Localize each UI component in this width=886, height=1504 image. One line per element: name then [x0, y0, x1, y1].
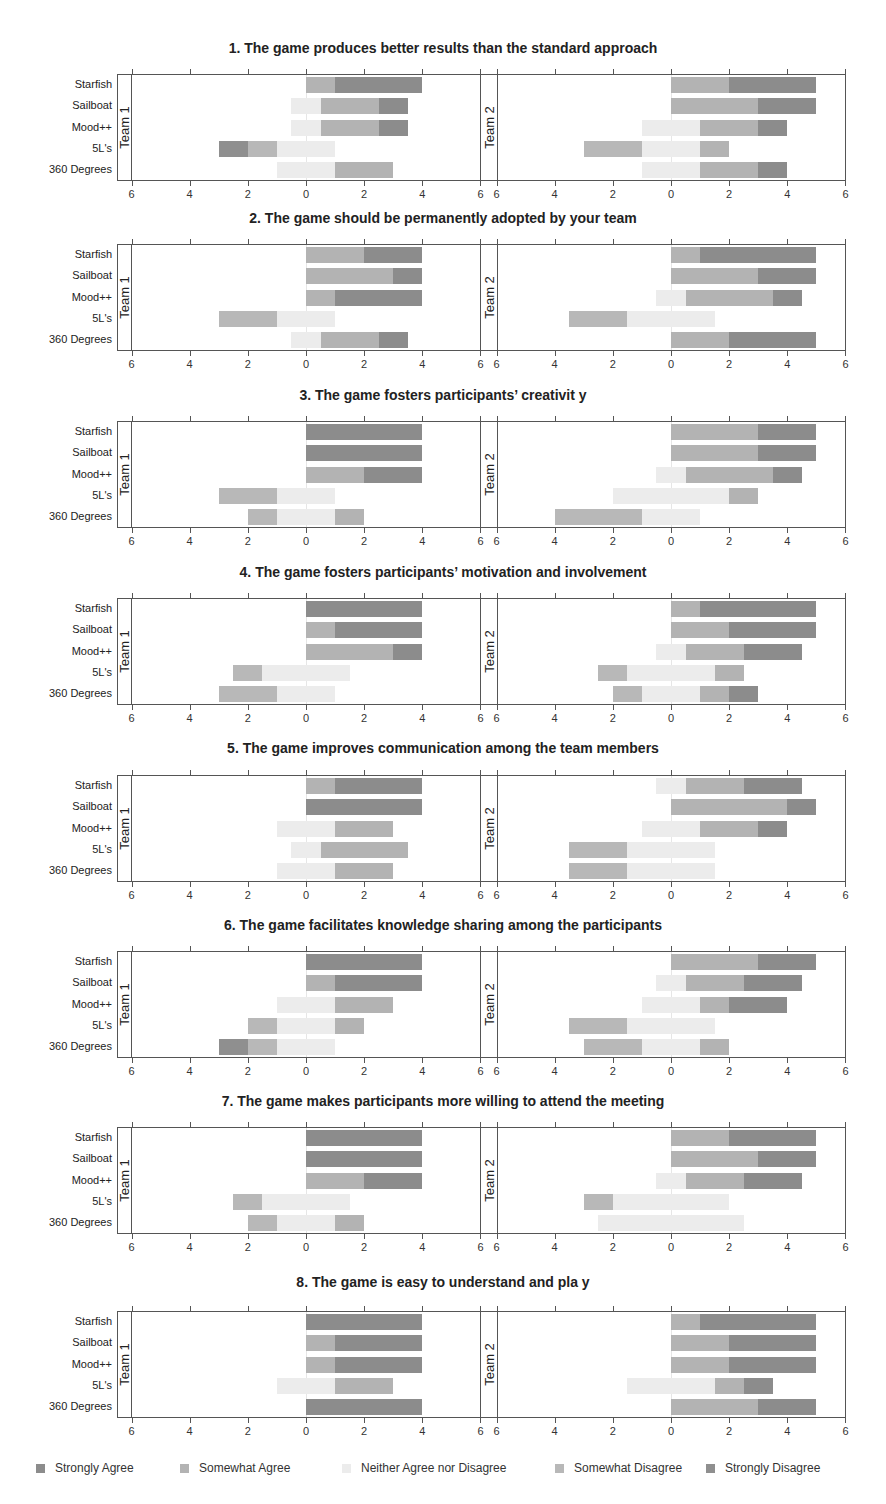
- tick-label: 2: [238, 188, 258, 200]
- tick-mark: [132, 239, 133, 244]
- tick-mark: [190, 1234, 191, 1239]
- tick-mark: [364, 351, 365, 356]
- tick-mark: [364, 239, 365, 244]
- tick-mark: [248, 416, 249, 421]
- tick-label: 4: [545, 889, 565, 901]
- bar-segment-strongly-agree: [773, 290, 802, 306]
- bar-segment-neutral: [291, 332, 320, 348]
- tick-label: 6: [835, 889, 855, 901]
- tick-mark: [480, 528, 481, 533]
- bar-segment-somewhat-agree: [306, 1173, 364, 1189]
- category-label: Starfish: [2, 602, 112, 614]
- panel-title: 3. The game fosters participants’ creati…: [0, 387, 886, 403]
- tick-mark: [422, 1122, 423, 1127]
- facet-label: Team 2: [481, 798, 496, 858]
- bar-segment-neutral: [291, 842, 320, 858]
- tick-label: 2: [603, 1425, 623, 1437]
- tick-label: 0: [296, 188, 316, 200]
- tick-mark: [364, 593, 365, 598]
- tick-mark: [132, 770, 133, 775]
- tick-mark: [306, 416, 307, 421]
- bar-segment-neutral: [642, 120, 700, 136]
- panel-title: 1. The game produces better results than…: [0, 40, 886, 56]
- bar-segment-strongly-agree: [306, 1151, 422, 1167]
- tick-mark: [422, 946, 423, 951]
- bar-segment-somewhat-agree: [306, 290, 335, 306]
- tick-mark: [248, 69, 249, 74]
- bar-segment-somewhat-agree: [671, 77, 729, 93]
- tick-mark: [497, 593, 498, 598]
- tick-mark: [613, 593, 614, 598]
- bar-segment-neutral: [642, 686, 700, 702]
- bar-segment-somewhat-agree: [306, 644, 393, 660]
- tick-mark: [248, 528, 249, 533]
- bar-segment-somewhat-agree: [700, 821, 758, 837]
- tick-mark: [671, 239, 672, 244]
- bar-segment-strongly-agree: [700, 601, 816, 617]
- tick-mark: [497, 946, 498, 951]
- bar-segment-somewhat-agree: [686, 467, 773, 483]
- tick-mark: [306, 69, 307, 74]
- tick-mark: [555, 239, 556, 244]
- tick-mark: [497, 181, 498, 186]
- bar-segment-strongly-agree: [364, 467, 422, 483]
- tick-label: 2: [354, 1241, 374, 1253]
- category-label: Starfish: [2, 779, 112, 791]
- tick-mark: [364, 528, 365, 533]
- tick-label: 4: [777, 1425, 797, 1437]
- bar-segment-strongly-agree: [306, 424, 422, 440]
- category-label: Mood++: [2, 1358, 112, 1370]
- tick-label: 6: [835, 358, 855, 370]
- tick-label: 4: [180, 889, 200, 901]
- tick-mark: [248, 882, 249, 887]
- tick-mark: [364, 69, 365, 74]
- tick-label: 4: [545, 188, 565, 200]
- bar-segment-somewhat-agree: [306, 77, 335, 93]
- bar-segment-somewhat-agree: [671, 601, 700, 617]
- tick-mark: [845, 946, 846, 951]
- tick-mark: [132, 1234, 133, 1239]
- tick-mark: [306, 1418, 307, 1423]
- tick-mark: [132, 1058, 133, 1063]
- bar-segment-somewhat-agree: [671, 1357, 729, 1373]
- category-label: Mood++: [2, 645, 112, 657]
- bar-segment-strongly-agree: [729, 622, 816, 638]
- bar-segment-somewhat-agree: [306, 622, 335, 638]
- bar-segment-strongly-agree: [758, 1399, 816, 1415]
- tick-mark: [613, 1122, 614, 1127]
- tick-mark: [729, 593, 730, 598]
- category-label: 360 Degrees: [2, 333, 112, 345]
- tick-label: 2: [719, 1241, 739, 1253]
- tick-label: 4: [412, 1425, 432, 1437]
- tick-mark: [787, 181, 788, 186]
- tick-mark: [306, 239, 307, 244]
- tick-mark: [132, 882, 133, 887]
- bar-segment-somewhat-agree: [335, 997, 393, 1013]
- tick-label: 4: [545, 1065, 565, 1077]
- tick-label: 6: [122, 1425, 142, 1437]
- bar-segment-neutral: [642, 997, 700, 1013]
- bar-segment-somewhat-agree: [335, 162, 393, 178]
- bar-segment-strongly-agree: [335, 975, 422, 991]
- tick-mark: [497, 1058, 498, 1063]
- tick-mark: [248, 1306, 249, 1311]
- bar-segment-strongly-agree: [729, 77, 816, 93]
- panel-title: 2. The game should be permanently adopte…: [0, 210, 886, 226]
- tick-label: 2: [354, 1425, 374, 1437]
- tick-label: 4: [180, 1425, 200, 1437]
- tick-mark: [845, 1418, 846, 1423]
- tick-mark: [190, 1058, 191, 1063]
- bar-segment-somewhat-agree: [671, 424, 758, 440]
- tick-label: 0: [296, 712, 316, 724]
- tick-mark: [132, 351, 133, 356]
- facet-label: Team 1: [117, 1150, 132, 1210]
- tick-mark: [190, 1418, 191, 1423]
- bar-segment-somewhat-agree: [671, 1151, 758, 1167]
- tick-mark: [845, 351, 846, 356]
- legend-label: Somewhat Agree: [199, 1461, 290, 1475]
- category-label: Mood++: [2, 291, 112, 303]
- bar-segment-somewhat-agree: [306, 778, 335, 794]
- category-label: Starfish: [2, 1315, 112, 1327]
- tick-mark: [671, 770, 672, 775]
- bar-segment-strongly-agree: [335, 77, 422, 93]
